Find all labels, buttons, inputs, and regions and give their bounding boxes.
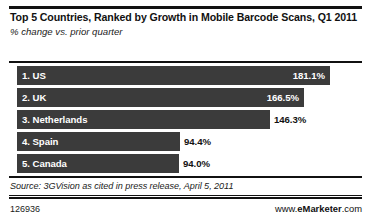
bar-row: 3. Netherlands146.3% [0,110,371,129]
brand-suffix: .com [342,203,362,214]
bar-row: 2. UK166.5% [0,88,371,107]
bar-row: 4. Spain94.4% [0,132,371,151]
brand-name: eMarketer [297,203,341,214]
bar-category-label: 5. Canada [22,154,67,173]
chart-id: 126936 [10,202,40,216]
bar-row: 5. Canada94.0% [0,154,371,173]
bar-chart-plot: 1. US181.1%2. UK166.5%3. Netherlands146.… [0,66,371,176]
source-note: Source: 3GVision as cited in press relea… [10,181,233,191]
bar-value-label: 181.1% [282,66,325,85]
chart-title: Top 5 Countries, Ranked by Growth in Mob… [10,11,362,24]
footer-divider-rule-thin [9,195,362,196]
bar-value-label: 94.4% [184,132,211,151]
emarketer-brand: www.eMarketer.com [275,202,362,216]
bar-value-label: 166.5% [256,88,299,107]
header-divider-rule [9,61,362,63]
bar-value-label: 146.3% [274,110,306,129]
bar-category-label: 2. UK [22,88,46,107]
bar-value-label: 94.0% [183,154,210,173]
chart-subtitle: % change vs. prior quarter [10,26,362,38]
top-divider-rule [9,6,362,9]
bar-category-label: 3. Netherlands [22,110,87,129]
bar-category-label: 4. Spain [22,132,58,151]
bar-row: 1. US181.1% [0,66,371,85]
chart-header: Top 5 Countries, Ranked by Growth in Mob… [10,11,362,38]
brand-prefix: www. [275,203,297,214]
plot-divider-rule [9,176,362,178]
emarketer-chart-card: Top 5 Countries, Ranked by Growth in Mob… [0,0,371,220]
bar-category-label: 1. US [22,66,46,85]
chart-footer: 126936 www.eMarketer.com [10,202,362,216]
footer-divider-rule-thick [9,197,362,199]
